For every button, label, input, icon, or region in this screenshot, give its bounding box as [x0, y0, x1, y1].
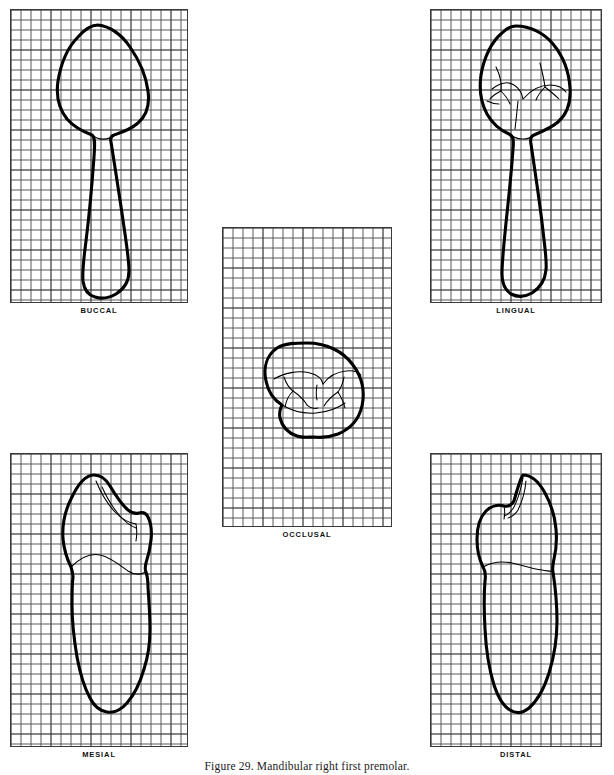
panel-label-buccal: BUCCAL — [10, 306, 188, 315]
panel-label-lingual: LINGUAL — [430, 306, 602, 315]
tooth-drawing-mesial — [10, 453, 188, 747]
panel-buccal — [10, 9, 188, 303]
panel-distal — [430, 453, 602, 747]
panel-label-occlusal: OCCLUSAL — [222, 530, 392, 539]
tooth-drawing-occlusal — [222, 227, 392, 527]
tooth-drawing-lingual — [430, 9, 602, 303]
panel-label-distal: DISTAL — [430, 750, 602, 759]
panel-label-mesial: MESIAL — [10, 750, 188, 759]
panel-lingual — [430, 9, 602, 303]
panel-occlusal — [222, 227, 392, 527]
tooth-drawing-distal — [430, 453, 602, 747]
figure-sheet: BUCCAL LINGUAL — [0, 0, 614, 775]
figure-caption: Figure 29. Mandibular right first premol… — [0, 760, 614, 772]
panel-mesial — [10, 453, 188, 747]
tooth-drawing-buccal — [10, 9, 188, 303]
